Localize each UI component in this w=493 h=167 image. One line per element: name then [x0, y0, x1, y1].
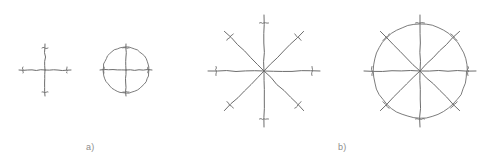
cross-4-spoke	[19, 44, 71, 96]
group-a	[19, 44, 152, 96]
star-8-spoke	[208, 15, 320, 127]
star-8-spoke-in-circle-spoke-45	[420, 31, 460, 71]
star-8-spoke-in-circle	[364, 15, 476, 127]
group-b	[208, 15, 476, 127]
cross-4-spoke-in-circle-tick-0	[148, 67, 149, 73]
star-8-spoke-in-circle-tick-90	[416, 23, 425, 24]
star-8-spoke-spoke-0	[264, 71, 320, 72]
technical-diagram-canvas	[0, 0, 493, 167]
cross-4-spoke-tick-270	[42, 92, 48, 93]
star-8-spoke-tick-90	[260, 23, 269, 24]
shape-layer	[19, 15, 476, 127]
star-8-spoke-spoke-225	[224, 71, 264, 111]
star-8-spoke-tick-270	[260, 119, 269, 120]
cross-4-spoke-in-circle	[100, 44, 152, 96]
star-8-spoke-in-circle-spoke-0	[420, 70, 476, 71]
figure-label-a: a)	[86, 143, 95, 152]
figure-label-b: b)	[338, 143, 347, 152]
